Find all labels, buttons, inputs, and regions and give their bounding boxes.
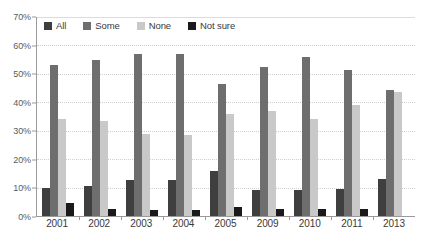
x-axis-label-cell: 2004 xyxy=(162,218,204,240)
bar-group xyxy=(37,17,79,216)
bar xyxy=(126,180,134,216)
y-axis-tick-label: 70% xyxy=(13,12,31,22)
legend-item-none[interactable]: None xyxy=(137,20,171,31)
bar xyxy=(66,203,74,216)
bar xyxy=(176,54,184,216)
bar xyxy=(226,114,234,216)
bar xyxy=(234,207,242,216)
legend-swatch-icon xyxy=(83,22,91,30)
legend-item-all[interactable]: All xyxy=(44,20,66,31)
bar xyxy=(336,189,344,216)
x-axis-label-cell: 2010 xyxy=(289,218,331,240)
bar xyxy=(218,84,226,216)
legend-swatch-icon xyxy=(188,22,196,30)
bar xyxy=(252,190,260,216)
bar xyxy=(134,54,142,216)
x-axis-label-cell: 2011 xyxy=(331,218,373,240)
x-axis-label-cell: 2005 xyxy=(204,218,246,240)
x-axis-category-label: 2011 xyxy=(341,218,362,229)
bar xyxy=(268,111,276,216)
bar xyxy=(50,65,58,216)
bar xyxy=(352,105,360,216)
bar xyxy=(42,188,50,216)
bar xyxy=(150,210,158,216)
bar xyxy=(210,171,218,216)
bar xyxy=(378,179,386,216)
legend-swatch-icon xyxy=(44,22,52,30)
bar xyxy=(192,210,200,216)
x-axis: 200120022003200420052009201020112013 xyxy=(36,218,415,240)
legend-label: Some xyxy=(95,20,119,31)
x-axis-category-label: 2009 xyxy=(257,218,279,229)
bar-group xyxy=(79,17,121,216)
grouped-bar-chart: 0%10%20%30%40%50%60%70% 2001200220032004… xyxy=(0,0,421,246)
bar xyxy=(360,209,368,216)
bar xyxy=(294,190,302,216)
bar xyxy=(302,57,310,216)
legend-label: All xyxy=(56,20,66,31)
x-axis-category-label: 2002 xyxy=(88,218,110,229)
bar xyxy=(84,186,92,216)
x-axis-category-label: 2004 xyxy=(172,218,194,229)
bar-group xyxy=(373,17,415,216)
bar xyxy=(276,209,284,216)
bar-group xyxy=(205,17,247,216)
y-axis-tick-label: 30% xyxy=(13,126,31,136)
bar xyxy=(184,135,192,216)
bar xyxy=(394,92,402,216)
legend-label: Not sure xyxy=(200,20,235,31)
y-axis-tick-label: 40% xyxy=(13,98,31,108)
bar-group xyxy=(121,17,163,216)
x-axis-category-label: 2001 xyxy=(46,218,68,229)
bar xyxy=(142,134,150,216)
bar-group xyxy=(331,17,373,216)
bar-groups xyxy=(37,17,415,216)
bar xyxy=(386,90,394,217)
legend-item-not-sure[interactable]: Not sure xyxy=(188,20,235,31)
y-axis-tick-label: 50% xyxy=(13,69,31,79)
bar xyxy=(168,180,176,216)
chart-legend: AllSomeNoneNot sure xyxy=(44,20,235,31)
y-axis-tick-label: 60% xyxy=(13,41,31,51)
x-axis-category-label: 2010 xyxy=(299,218,321,229)
bar xyxy=(260,67,268,216)
bar-group xyxy=(289,17,331,216)
y-axis-tick-label: 0% xyxy=(18,212,31,222)
x-axis-category-label: 2005 xyxy=(215,218,237,229)
legend-item-some[interactable]: Some xyxy=(83,20,119,31)
y-axis-tick-label: 20% xyxy=(13,155,31,165)
bar xyxy=(318,209,326,216)
x-axis-label-cell: 2001 xyxy=(36,218,78,240)
x-axis-category-label: 2013 xyxy=(383,218,405,229)
x-axis-label-cell: 2002 xyxy=(78,218,120,240)
x-axis-category-label: 2003 xyxy=(130,218,152,229)
y-axis-tick-label: 10% xyxy=(13,183,31,193)
bar-group xyxy=(247,17,289,216)
plot-area xyxy=(36,17,415,217)
bar xyxy=(100,121,108,216)
x-axis-label-cell: 2003 xyxy=(120,218,162,240)
bar xyxy=(58,119,66,216)
bar xyxy=(344,70,352,216)
bar xyxy=(310,119,318,216)
x-axis-label-cell: 2013 xyxy=(373,218,415,240)
y-axis: 0%10%20%30%40%50%60%70% xyxy=(0,17,36,217)
x-axis-label-cell: 2009 xyxy=(247,218,289,240)
legend-label: None xyxy=(149,20,171,31)
bar xyxy=(92,60,100,216)
bar-group xyxy=(163,17,205,216)
bar xyxy=(108,209,116,216)
legend-swatch-icon xyxy=(137,22,145,30)
